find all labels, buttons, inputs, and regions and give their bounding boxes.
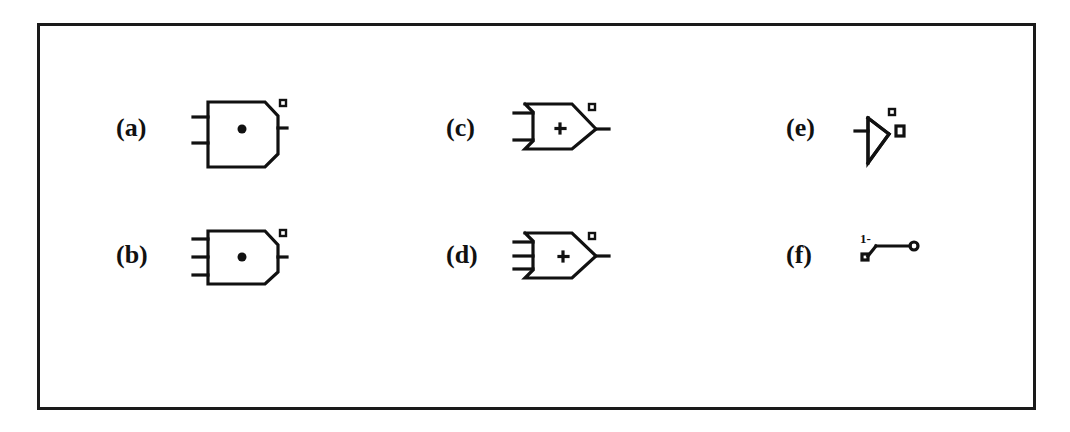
switch-icon: 1-	[0, 0, 1070, 432]
switch-annotation: 1-	[860, 231, 871, 246]
